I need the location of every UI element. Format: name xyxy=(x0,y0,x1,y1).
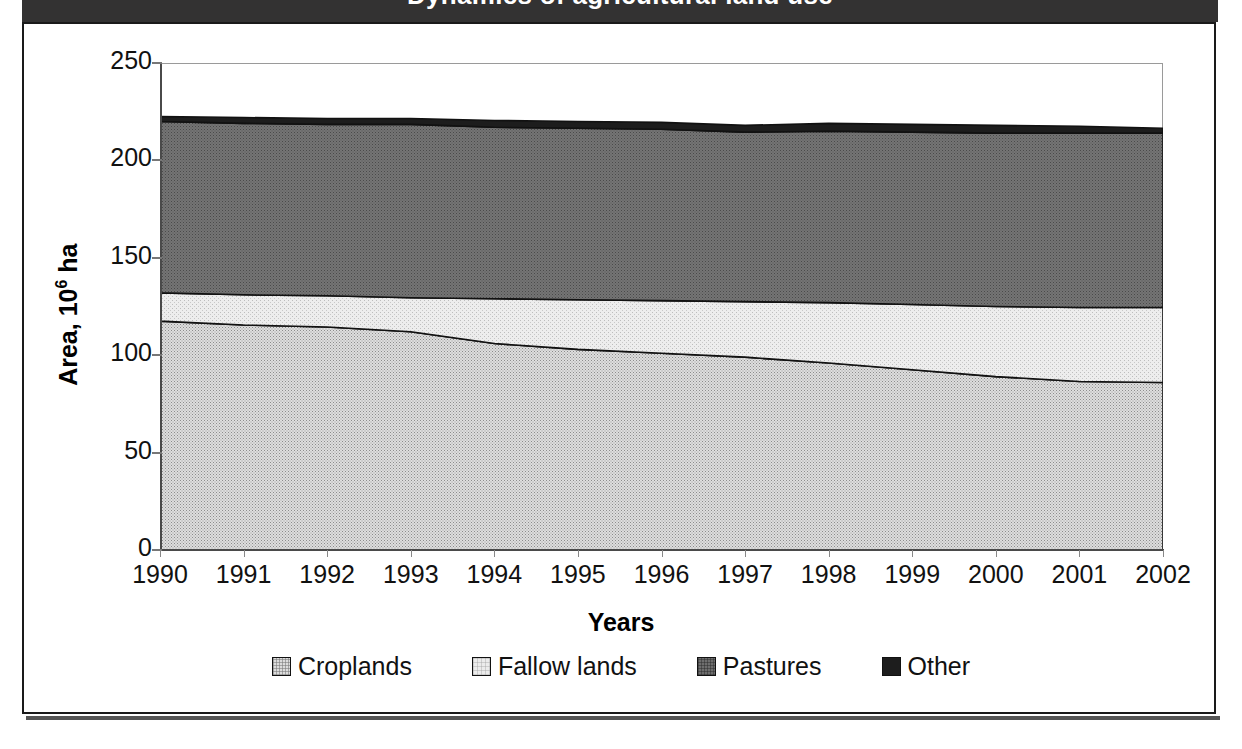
legend-label: Fallow lands xyxy=(498,652,637,681)
y-tick-mark xyxy=(152,452,162,454)
x-tick-mark xyxy=(1163,550,1164,557)
x-tick-mark xyxy=(578,550,579,557)
legend-item-fallow[interactable]: Fallow lands xyxy=(472,652,637,681)
legend-swatch-icon xyxy=(472,657,491,676)
x-tick-mark xyxy=(662,550,663,557)
x-tick-label: 2002 xyxy=(1118,560,1208,589)
x-tick-mark xyxy=(829,550,830,557)
legend-label: Croplands xyxy=(298,652,412,681)
x-tick-label: 1998 xyxy=(784,560,874,589)
legend-item-croplands[interactable]: Croplands xyxy=(272,652,412,681)
legend-item-pastures[interactable]: Pastures xyxy=(697,652,822,681)
x-tick-label: 1994 xyxy=(449,560,539,589)
y-tick-mark xyxy=(152,354,162,356)
x-tick-mark xyxy=(912,550,913,557)
x-tick-mark xyxy=(160,550,161,557)
x-tick-mark xyxy=(327,550,328,557)
x-tick-label: 1992 xyxy=(282,560,372,589)
y-axis-title: Area, 106 ha xyxy=(53,205,82,425)
y-tick-label: 50 xyxy=(86,438,152,463)
y-tick-mark xyxy=(152,159,162,161)
chart-legend: CroplandsFallow landsPasturesOther xyxy=(0,652,1242,681)
x-tick-label: 1996 xyxy=(617,560,707,589)
y-axis-title-suffix: ha xyxy=(54,244,82,280)
y-axis-title-exponent: 6 xyxy=(53,280,70,289)
legend-swatch-icon xyxy=(697,657,716,676)
y-tick-mark xyxy=(152,257,162,259)
y-tick-label: 0 xyxy=(86,535,152,560)
plot-area-frame xyxy=(160,63,1163,550)
x-tick-label: 1997 xyxy=(700,560,790,589)
y-tick-label: 200 xyxy=(86,145,152,170)
stacked-area-chart: 050100150200250 Area, 106 ha 19901991199… xyxy=(0,0,1242,749)
x-tick-label: 1995 xyxy=(533,560,623,589)
x-axis-title: Years xyxy=(0,608,1242,637)
x-tick-label: 2000 xyxy=(951,560,1041,589)
y-axis-line xyxy=(160,63,162,551)
y-tick-label: 250 xyxy=(86,48,152,73)
x-tick-mark xyxy=(745,550,746,557)
x-tick-label: 1993 xyxy=(366,560,456,589)
y-tick-label: 150 xyxy=(86,243,152,268)
x-tick-label: 1991 xyxy=(199,560,289,589)
legend-item-other[interactable]: Other xyxy=(882,652,971,681)
x-tick-mark xyxy=(411,550,412,557)
x-tick-mark xyxy=(244,550,245,557)
x-tick-label: 1990 xyxy=(115,560,205,589)
x-tick-mark xyxy=(996,550,997,557)
y-tick-mark xyxy=(152,62,162,64)
x-tick-label: 1999 xyxy=(867,560,957,589)
legend-swatch-icon xyxy=(882,657,901,676)
legend-label: Pastures xyxy=(723,652,822,681)
x-tick-label: 2001 xyxy=(1034,560,1124,589)
x-tick-mark xyxy=(494,550,495,557)
y-axis-title-prefix: Area, 10 xyxy=(54,289,82,386)
legend-swatch-icon xyxy=(272,657,291,676)
legend-label: Other xyxy=(908,652,971,681)
y-tick-label: 100 xyxy=(86,340,152,365)
x-tick-mark xyxy=(1079,550,1080,557)
